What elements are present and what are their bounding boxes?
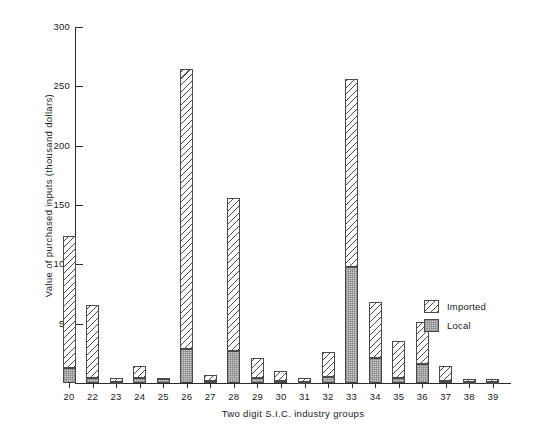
bar-segment-local-38: [463, 382, 476, 384]
y-tick-100: [76, 264, 83, 265]
bar-segment-imported-29: [251, 358, 264, 378]
bar-20: [63, 236, 76, 383]
x-tick-37: [446, 383, 447, 388]
bar-28: [227, 198, 240, 383]
bar-segment-local-37: [439, 381, 452, 383]
x-tick-32: [328, 383, 329, 388]
bar-segment-local-22: [86, 378, 99, 383]
bar-segment-imported-32: [322, 352, 335, 377]
bar-segment-local-34: [369, 358, 382, 383]
x-tick-33: [352, 383, 353, 388]
x-tick-34: [375, 383, 376, 388]
x-tick-label-30: 30: [269, 391, 293, 402]
x-tick-28: [234, 383, 235, 388]
x-tick-36: [422, 383, 423, 388]
legend-swatch-imported-icon: [424, 300, 439, 313]
x-tick-label-33: 33: [340, 391, 364, 402]
bar-segment-imported-34: [369, 302, 382, 358]
x-axis-title: Two digit S.I.C. industry groups: [75, 408, 511, 419]
x-tick-label-37: 37: [434, 391, 458, 402]
x-tick-label-31: 31: [293, 391, 317, 402]
bar-segment-imported-26: [180, 69, 193, 349]
bar-segment-local-35: [392, 378, 405, 383]
x-tick-label-23: 23: [104, 391, 128, 402]
bar-segment-local-30: [274, 381, 287, 383]
x-tick-22: [93, 383, 94, 388]
y-tick-50: [76, 324, 83, 325]
x-tick-30: [281, 383, 282, 388]
x-tick-24: [140, 383, 141, 388]
bar-35: [392, 341, 405, 383]
bar-segment-imported-37: [439, 366, 452, 380]
bar-segment-local-27: [204, 381, 217, 383]
legend-swatch-local-icon: [424, 319, 439, 332]
x-tick-26: [187, 383, 188, 388]
x-tick-label-38: 38: [457, 391, 481, 402]
bar-segment-imported-22: [86, 305, 99, 379]
y-tick-300: [76, 27, 83, 28]
x-tick-label-25: 25: [151, 391, 175, 402]
bar-39: [486, 379, 499, 383]
x-tick-label-28: 28: [222, 391, 246, 402]
bar-segment-imported-24: [133, 366, 146, 378]
bar-segment-local-29: [251, 378, 264, 383]
y-tick-label-300: 300: [36, 22, 70, 32]
x-tick-25: [163, 383, 164, 388]
x-tick-label-36: 36: [410, 391, 434, 402]
bar-23: [110, 378, 123, 383]
bar-29: [251, 358, 264, 383]
bar-37: [439, 366, 452, 383]
bar-segment-imported-33: [345, 79, 358, 266]
x-tick-label-29: 29: [245, 391, 269, 402]
bar-segment-local-32: [322, 377, 335, 383]
x-tick-label-32: 32: [316, 391, 340, 402]
bar-segment-local-25: [157, 379, 170, 383]
x-tick-35: [399, 383, 400, 388]
y-tick-200: [76, 146, 83, 147]
bar-33: [345, 79, 358, 383]
bar-segment-imported-30: [274, 371, 287, 380]
x-tick-label-26: 26: [175, 391, 199, 402]
legend-label-local: Local: [447, 320, 471, 331]
x-tick-label-39: 39: [481, 391, 505, 402]
bar-25: [157, 378, 170, 383]
bar-30: [274, 371, 287, 383]
x-tick-20: [69, 383, 70, 388]
bar-31: [298, 378, 311, 383]
bar-segment-local-39: [486, 382, 499, 384]
bar-32: [322, 352, 335, 383]
legend-item-local: Local: [424, 318, 486, 333]
y-axis-title: Value of purchased inputs (thousand doll…: [43, 51, 54, 341]
x-tick-label-35: 35: [387, 391, 411, 402]
x-tick-label-20: 20: [57, 391, 81, 402]
bar-segment-local-24: [133, 378, 146, 383]
bar-segment-local-20: [63, 368, 76, 383]
bar-segment-local-36: [416, 364, 429, 383]
bar-segment-local-26: [180, 349, 193, 383]
bar-segment-local-28: [227, 351, 240, 383]
bar-22: [86, 305, 99, 383]
bar-segment-local-23: [110, 382, 123, 384]
y-tick-150: [76, 205, 83, 206]
bar-segment-local-33: [345, 267, 358, 383]
y-tick-250: [76, 86, 83, 87]
chart-legend: Imported Local: [424, 299, 486, 337]
bar-chart: 50100150200250300 2022232425262728293031…: [0, 0, 552, 431]
bar-26: [180, 69, 193, 383]
x-tick-label-24: 24: [128, 391, 152, 402]
bar-segment-imported-28: [227, 198, 240, 351]
bar-24: [133, 366, 146, 383]
bar-segment-local-31: [298, 382, 311, 384]
bar-segment-imported-20: [63, 236, 76, 368]
bar-27: [204, 375, 217, 383]
x-tick-27: [210, 383, 211, 388]
x-tick-label-27: 27: [198, 391, 222, 402]
x-tick-label-22: 22: [81, 391, 105, 402]
x-tick-29: [257, 383, 258, 388]
x-tick-label-34: 34: [363, 391, 387, 402]
bar-34: [369, 302, 382, 383]
legend-label-imported: Imported: [447, 301, 486, 312]
legend-item-imported: Imported: [424, 299, 486, 314]
bar-segment-imported-35: [392, 341, 405, 378]
bar-38: [463, 379, 476, 383]
